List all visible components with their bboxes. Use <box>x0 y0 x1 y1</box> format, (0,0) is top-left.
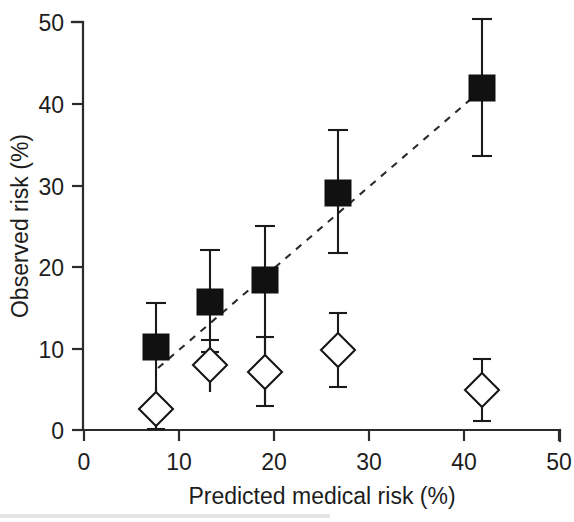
data-point-diamond-2 <box>193 348 227 392</box>
marker-filled-square <box>143 334 169 360</box>
scatter-plot-figure: 50 40 30 20 10 0 0 10 20 30 40 50 Predic… <box>0 0 574 522</box>
x-tick-label-10: 10 <box>166 449 192 475</box>
x-tick-labels: 0 10 20 30 40 50 <box>78 449 572 475</box>
marker-open-diamond <box>465 373 499 407</box>
y-tick-label-30: 30 <box>38 174 64 200</box>
x-tick-label-40: 40 <box>451 449 477 475</box>
y-tick-label-0: 0 <box>51 418 64 444</box>
x-axis-title: Predicted medical risk (%) <box>188 483 455 509</box>
x-tick-label-30: 30 <box>356 449 382 475</box>
data-point-diamond-1 <box>139 387 173 429</box>
y-axis-ticks <box>72 22 83 430</box>
marker-filled-square <box>252 267 278 293</box>
x-tick-label-50: 50 <box>546 449 572 475</box>
y-tick-label-40: 40 <box>38 92 64 118</box>
data-point-diamond-5 <box>465 359 499 421</box>
open-diamond-series <box>139 313 499 429</box>
y-tick-label-10: 10 <box>38 337 64 363</box>
data-point-diamond-3 <box>248 337 282 406</box>
marker-filled-square <box>197 289 223 315</box>
y-tick-labels: 50 40 30 20 10 0 <box>38 10 64 444</box>
marker-open-diamond <box>193 348 227 382</box>
y-tick-label-50: 50 <box>38 10 64 36</box>
x-axis-ticks <box>84 430 559 441</box>
data-point-square-5 <box>469 19 495 156</box>
identity-dashed-line <box>158 93 478 368</box>
x-tick-label-0: 0 <box>78 449 91 475</box>
marker-open-diamond <box>139 392 173 426</box>
marker-filled-square <box>469 75 495 101</box>
data-point-diamond-4 <box>321 313 355 387</box>
plot-canvas: 50 40 30 20 10 0 0 10 20 30 40 50 Predic… <box>0 0 574 522</box>
page-scan-artifact <box>0 514 330 518</box>
marker-open-diamond <box>248 355 282 389</box>
marker-filled-square <box>325 180 351 206</box>
marker-open-diamond <box>321 333 355 367</box>
data-point-square-4 <box>325 130 351 253</box>
y-tick-label-20: 20 <box>38 255 64 281</box>
x-tick-label-20: 20 <box>261 449 287 475</box>
y-axis-title: Observed risk (%) <box>7 134 33 318</box>
